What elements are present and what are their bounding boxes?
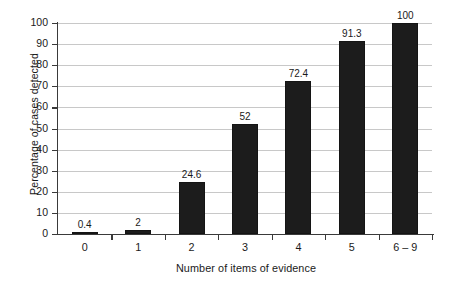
y-tick-mark [52, 234, 58, 235]
bar-value-label: 2 [113, 217, 163, 228]
gridline [58, 44, 432, 45]
bar [339, 41, 365, 234]
x-tick-label: 0 [55, 241, 115, 253]
x-tick-mark [379, 235, 380, 240]
y-tick-label: 30 [14, 164, 48, 176]
bar [179, 182, 205, 234]
gridline [58, 107, 432, 108]
bar-value-label: 91.3 [327, 28, 377, 39]
bar [392, 23, 418, 234]
y-tick-label: 80 [14, 58, 48, 70]
y-tick-label: 70 [14, 79, 48, 91]
y-tick-label: 40 [14, 143, 48, 155]
y-tick-label: 20 [14, 185, 48, 197]
x-tick-label: 1 [108, 241, 168, 253]
bar-value-label: 72.4 [273, 68, 323, 79]
gridline [58, 86, 432, 87]
x-tick-mark [432, 235, 433, 240]
y-tick-label: 60 [14, 100, 48, 112]
x-tick-mark [272, 235, 273, 240]
bar [285, 81, 311, 234]
x-tick-label: 2 [162, 241, 222, 253]
bar-value-label: 24.6 [167, 169, 217, 180]
y-tick-label: 10 [14, 206, 48, 218]
x-axis-title: Number of items of evidence [58, 262, 434, 274]
bar-value-label: 0.4 [60, 219, 110, 230]
gridline [58, 65, 432, 66]
bar [72, 232, 98, 234]
x-tick-label: 5 [322, 241, 382, 253]
x-tick-mark [111, 235, 112, 240]
x-tick-label: 3 [215, 241, 275, 253]
y-tick-label: 0 [14, 227, 48, 239]
x-tick-label: 4 [268, 241, 328, 253]
y-tick-label: 50 [14, 122, 48, 134]
y-tick-label: 100 [14, 16, 48, 28]
gridline [58, 23, 432, 24]
bar-chart: Percentage of cases detected 01020304050… [0, 0, 454, 283]
bar-value-label: 100 [380, 10, 430, 21]
bar [125, 230, 151, 234]
bar-value-label: 52 [220, 111, 270, 122]
x-tick-mark [218, 235, 219, 240]
x-tick-label: 6 – 9 [375, 241, 435, 253]
plot-area [58, 23, 432, 234]
bar [232, 124, 258, 234]
x-tick-mark [325, 235, 326, 240]
x-tick-mark [165, 235, 166, 240]
y-tick-label: 90 [14, 37, 48, 49]
